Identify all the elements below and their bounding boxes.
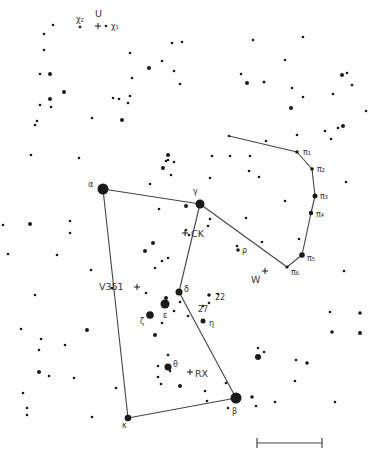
field-star [179, 83, 182, 86]
field-star [171, 42, 174, 45]
field-star [43, 49, 46, 52]
field-star [343, 270, 346, 273]
field-star [39, 73, 42, 76]
star-rho [236, 248, 240, 252]
field-star [52, 24, 55, 27]
field-star [255, 354, 261, 360]
field-star [73, 377, 76, 380]
field-star [69, 232, 72, 235]
field-star [26, 407, 29, 410]
field-star [38, 349, 41, 352]
star-label-rho: ρ [242, 246, 247, 255]
field-star [330, 330, 334, 334]
field-star [157, 376, 160, 379]
field-star [43, 33, 46, 36]
field-star [284, 200, 287, 203]
field-star [265, 140, 268, 143]
field-star [143, 249, 147, 253]
field-star [289, 106, 293, 110]
field-star [296, 134, 299, 137]
field-star [26, 414, 29, 417]
field-star [245, 81, 249, 85]
field-star [112, 97, 115, 100]
field-star [284, 59, 287, 62]
field-star [346, 72, 349, 75]
field-star [85, 328, 89, 332]
star-label-delta: δ [184, 285, 189, 294]
field-star [263, 81, 266, 84]
field-star [129, 95, 132, 98]
field-star [78, 157, 81, 160]
field-star [324, 130, 327, 133]
field-star [208, 302, 211, 305]
star-label-eta: η [209, 319, 214, 328]
field-star [248, 170, 251, 173]
field-star [153, 333, 157, 337]
field-star [207, 225, 210, 228]
field-star [252, 39, 255, 42]
field-star [206, 400, 209, 403]
field-star [161, 322, 164, 325]
field-star [149, 183, 152, 186]
field-star [250, 395, 254, 399]
field-star [330, 138, 333, 141]
field-star [131, 77, 134, 80]
field-star [161, 166, 165, 170]
field-star [30, 154, 33, 157]
field-star [298, 238, 301, 241]
star-beta [231, 393, 242, 404]
field-star [90, 269, 93, 272]
field-star [204, 390, 207, 393]
field-star [294, 380, 297, 383]
star-label-pi6: π₆ [291, 268, 299, 277]
star-label-theta: θ [173, 360, 178, 369]
field-star [64, 344, 67, 347]
field-star [28, 222, 32, 226]
field-star [227, 407, 230, 410]
field-star [236, 245, 239, 248]
field-star [48, 375, 51, 378]
star-delta [176, 289, 183, 296]
star-label-pi1: π₁ [303, 148, 311, 157]
field-star [34, 294, 37, 297]
field-star [167, 257, 170, 260]
star-label-pi5: π₅ [307, 254, 315, 263]
field-star [20, 328, 23, 331]
star-label-n22: 22 [215, 293, 225, 302]
field-star [37, 370, 41, 374]
star-label-chi2: χ₂ [76, 15, 84, 24]
field-star [329, 311, 332, 314]
star-pi4 [309, 211, 313, 215]
field-star [2, 224, 5, 227]
field-star [209, 218, 212, 221]
field-star [257, 347, 260, 350]
field-star [161, 60, 164, 63]
field-star [341, 124, 345, 128]
star-chart: αγδεζηκβθρπ₁π₂π₃π₄π₅π₆χ₁χ₂2227 UCKWV351R… [0, 0, 372, 463]
star-eta [201, 319, 206, 324]
field-star [302, 36, 305, 39]
star-label-pi4: π₄ [316, 210, 324, 219]
field-star [240, 73, 243, 76]
field-star [305, 361, 309, 365]
field-star [209, 177, 212, 180]
field-star [173, 161, 176, 164]
field-star [178, 384, 182, 388]
star-pi5 [299, 252, 305, 258]
star-label-chi1: χ₁ [111, 22, 119, 31]
field-star [157, 365, 160, 368]
field-star [127, 102, 130, 105]
field-star [160, 383, 163, 386]
field-star [48, 97, 52, 101]
field-star [188, 234, 191, 237]
star-label-pi3: π₃ [320, 192, 328, 201]
field-star [245, 217, 248, 220]
field-star [274, 401, 277, 404]
field-star [91, 117, 94, 120]
field-star [261, 241, 264, 244]
field-star [295, 359, 298, 362]
star-label-beta: β [232, 407, 237, 416]
field-star [36, 120, 39, 123]
field-star [291, 87, 294, 90]
star-label-pi2: π₂ [317, 165, 325, 174]
